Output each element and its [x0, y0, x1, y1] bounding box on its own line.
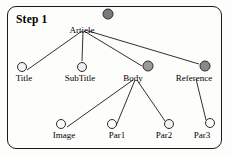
node-circle-article[interactable]: [103, 9, 114, 20]
tree-edge-body-to-par1: [116, 80, 135, 126]
node-label-subtitle: SubTitle: [65, 74, 96, 83]
node-label-par2: Par2: [156, 131, 173, 140]
diagram-canvas: Step 1 ArticleTitleSubTitleBodyReference…: [0, 0, 231, 158]
node-circle-image[interactable]: [56, 119, 66, 129]
node-circle-subtitle[interactable]: [77, 62, 87, 72]
node-label-title: Title: [16, 74, 33, 83]
tree-edge-article-to-subtitle: [82, 31, 83, 61]
node-label-reference: Reference: [176, 74, 212, 83]
tree-edge-article-to-body: [84, 31, 142, 66]
tree-edge-body-to-image: [67, 80, 133, 127]
node-circle-par2[interactable]: [164, 119, 174, 129]
tree-edge-article-to-title: [27, 31, 82, 70]
node-circle-par1[interactable]: [107, 119, 117, 129]
node-label-par3: Par3: [194, 131, 211, 140]
node-circle-title[interactable]: [17, 62, 27, 72]
node-label-par1: Par1: [109, 131, 126, 140]
node-circle-body[interactable]: [143, 61, 154, 72]
tree-edge-reference-to-par3: [196, 79, 206, 120]
tree-edge-article-to-reference: [85, 30, 199, 64]
tree-edge-body-to-par2: [137, 80, 165, 121]
node-label-image: Image: [53, 131, 76, 140]
node-circle-par3[interactable]: [205, 118, 215, 128]
node-label-body: Body: [123, 74, 143, 83]
node-circle-reference[interactable]: [200, 61, 211, 72]
node-label-article: Article: [70, 26, 95, 35]
